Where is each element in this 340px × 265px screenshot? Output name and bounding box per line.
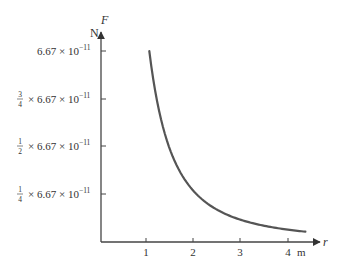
svg-text:2: 2 (18, 147, 22, 156)
x-tick-label: 3 (237, 246, 243, 258)
x-ticks: 1 2 3 4 m (143, 238, 306, 258)
y-ticks: 6.67 × 10−11 3 4 × 6.67 × 10−11 1 2 × 6.… (17, 43, 106, 204)
y-tick-label: 1 2 × 6.67 × 10−11 (17, 137, 91, 156)
x-tick-label: 4 (285, 246, 291, 258)
svg-text:× 6.67 × 10−11: × 6.67 × 10−11 (28, 138, 91, 152)
x-axis-name: r (323, 235, 328, 249)
x-unit-label: m (297, 246, 306, 258)
y-tick-label: 3 4 × 6.67 × 10−11 (17, 90, 91, 109)
y-axis-name: F (100, 13, 109, 27)
svg-text:1: 1 (18, 137, 22, 146)
svg-text:× 6.67 × 10−11: × 6.67 × 10−11 (28, 186, 91, 200)
svg-text:1: 1 (18, 185, 22, 194)
y-tick-label: 6.67 × 10−11 (37, 43, 91, 57)
x-tick-label: 2 (190, 246, 196, 258)
y-tick-label: 1 4 × 6.67 × 10−11 (17, 185, 91, 204)
x-tick-label: 1 (143, 246, 149, 258)
force-vs-distance-chart: N F r 1 2 3 4 m 6.67 × 10−11 3 4 × 6.67 … (0, 0, 340, 265)
svg-text:4: 4 (18, 195, 22, 204)
svg-text:4: 4 (18, 100, 22, 109)
svg-text:× 6.67 × 10−11: × 6.67 × 10−11 (28, 91, 91, 105)
y-unit-label: N (90, 26, 99, 40)
inverse-square-curve (149, 51, 305, 232)
svg-text:3: 3 (18, 90, 22, 99)
